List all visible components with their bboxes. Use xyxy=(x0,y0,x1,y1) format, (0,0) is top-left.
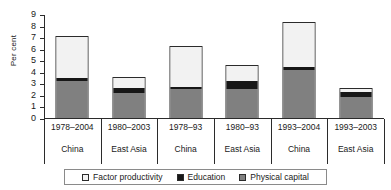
category-region-label: China xyxy=(157,144,214,154)
y-axis-title: Per cent xyxy=(9,21,18,81)
y-axis-tick-label: 8 xyxy=(31,21,36,31)
category-region-label: East Asia xyxy=(101,144,158,154)
category-cell: 1978–2004China xyxy=(44,119,101,164)
category-cell: 1980–2003East Asia xyxy=(101,119,158,164)
bar-slot xyxy=(327,15,384,119)
bar-slot xyxy=(214,15,271,119)
category-separator xyxy=(271,119,272,164)
legend-label: Education xyxy=(188,172,226,182)
category-period-label: 1993–2004 xyxy=(271,122,328,132)
y-axis-tick-label: 4 xyxy=(31,67,36,77)
legend-label: Factor productivity xyxy=(93,172,162,182)
category-period-label: 1978–2004 xyxy=(44,122,101,132)
category-region-label: East Asia xyxy=(214,144,271,154)
stacked-bar[interactable] xyxy=(112,77,145,119)
category-region-label: East Asia xyxy=(327,144,384,154)
bar-segment-physical-capital xyxy=(57,81,88,118)
bar-segment-physical-capital xyxy=(227,89,258,118)
bar-segment-physical-capital xyxy=(113,93,144,118)
category-separator xyxy=(157,119,158,164)
bar-segment-factor-productivity xyxy=(283,23,314,67)
stacked-bar[interactable] xyxy=(56,36,89,119)
bar-segment-factor-productivity xyxy=(170,47,201,86)
bar-segment-physical-capital xyxy=(170,89,201,118)
bar-segment-factor-productivity xyxy=(227,66,258,81)
chart-legend: Factor productivityEducationPhysical cap… xyxy=(64,169,327,185)
category-cell: 1993–2004China xyxy=(271,119,328,164)
category-region-label: China xyxy=(44,144,101,154)
stacked-bar[interactable] xyxy=(282,22,315,119)
category-period-label: 1978–93 xyxy=(157,122,214,132)
bar-segment-physical-capital xyxy=(340,97,371,118)
stacked-bar[interactable] xyxy=(169,46,202,119)
bar-segment-factor-productivity xyxy=(113,78,144,87)
legend-swatch-icon xyxy=(177,174,184,181)
legend-label: Physical capital xyxy=(250,172,309,182)
stacked-bar[interactable] xyxy=(226,65,259,119)
plot-area: 0123456789 xyxy=(44,15,384,119)
legend-item[interactable]: Education xyxy=(177,172,226,182)
stacked-bar[interactable] xyxy=(339,88,372,119)
category-cell: 1993–2003East Asia xyxy=(327,119,384,164)
y-axis-tick-label: 3 xyxy=(31,78,36,88)
bar-slot xyxy=(101,15,158,119)
y-axis-tick-label: 2 xyxy=(31,90,36,100)
category-period-label: 1980–93 xyxy=(214,122,271,132)
category-region-label: China xyxy=(271,144,328,154)
y-axis-tick-label: 0 xyxy=(31,113,36,123)
category-separator xyxy=(384,119,385,164)
category-period-label: 1993–2003 xyxy=(327,122,384,132)
legend-swatch-icon xyxy=(82,174,89,181)
category-separator xyxy=(214,119,215,164)
category-label-table: 1978–2004China1980–2003East Asia1978–93C… xyxy=(44,119,384,164)
category-separator xyxy=(44,119,45,164)
bar-slot xyxy=(157,15,214,119)
legend-swatch-icon xyxy=(239,174,246,181)
bar-segment-physical-capital xyxy=(283,70,314,118)
y-axis-tick-label: 5 xyxy=(31,55,36,65)
y-axis-tick-label: 1 xyxy=(31,101,36,111)
stacked-bar-chart: Per cent 0123456789 1978–2004China1980–2… xyxy=(0,0,391,190)
y-axis-tick-label: 9 xyxy=(31,9,36,19)
y-axis-tick-label: 7 xyxy=(31,32,36,42)
category-period-label: 1980–2003 xyxy=(101,122,158,132)
category-cell: 1978–93China xyxy=(157,119,214,164)
legend-item[interactable]: Physical capital xyxy=(239,172,309,182)
bar-slot xyxy=(271,15,328,119)
bar-slot xyxy=(44,15,101,119)
legend-item[interactable]: Factor productivity xyxy=(82,172,162,182)
bar-segment-factor-productivity xyxy=(57,37,88,78)
category-separator xyxy=(101,119,102,164)
category-cell: 1980–93East Asia xyxy=(214,119,271,164)
y-axis-tick-label: 6 xyxy=(31,44,36,54)
category-separator xyxy=(327,119,328,164)
bar-segment-education xyxy=(227,81,258,88)
